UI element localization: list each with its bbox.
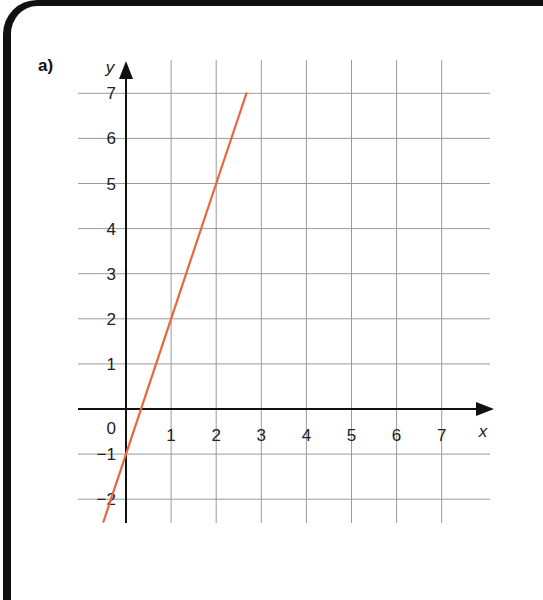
y-tick-label: 7 — [107, 84, 116, 103]
x-tick-label: 2 — [211, 426, 220, 445]
x-axis-arrow-icon — [476, 402, 494, 416]
x-tick-label: 1 — [166, 426, 175, 445]
y-tick-label: 2 — [107, 310, 116, 329]
x-tick-label: 7 — [437, 426, 446, 445]
y-tick-label: 1 — [107, 355, 116, 374]
data-line — [103, 93, 246, 521]
x-tick-label: 5 — [347, 426, 356, 445]
x-tick-label: 3 — [257, 426, 266, 445]
y-tick-label: 4 — [107, 220, 116, 239]
tick-labels: 12345677654321−1−20xy — [97, 58, 488, 509]
grid-lines — [78, 60, 490, 523]
y-axis-arrow-icon — [119, 61, 133, 79]
y-tick-label: 6 — [107, 129, 116, 148]
x-axis-label: x — [478, 422, 488, 441]
y-tick-label: −1 — [97, 445, 116, 464]
x-tick-label: 6 — [392, 426, 401, 445]
x-tick-label: 4 — [302, 426, 311, 445]
plotted-line — [103, 93, 246, 521]
y-axis-label: y — [105, 58, 116, 77]
y-tick-label: 5 — [107, 175, 116, 194]
y-tick-label: 3 — [107, 265, 116, 284]
origin-label: 0 — [107, 419, 116, 438]
